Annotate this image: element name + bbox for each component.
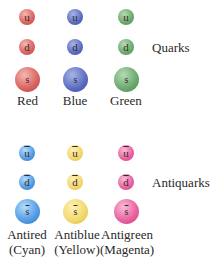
particle-symbol: s — [125, 74, 129, 85]
color-label-name: Antigreen — [100, 227, 154, 242]
antiquark-yellow-d: d — [67, 174, 83, 190]
group-label-quarks: Quarks — [152, 40, 190, 56]
color-label-name: Antired — [4, 227, 50, 242]
particle-symbol: d — [24, 41, 30, 53]
color-label-antigreen: Antigreen(Magenta) — [100, 227, 154, 257]
color-label-red: Red — [12, 93, 43, 108]
particle-symbol: u — [123, 147, 129, 159]
quark-blue-s: s — [63, 67, 88, 92]
particle-symbol: d — [72, 176, 78, 188]
color-label-sub: (Magenta) — [100, 242, 154, 257]
quark-red-u: u — [19, 9, 35, 25]
quark-green-u: u — [118, 9, 134, 25]
particle-symbol: d — [123, 176, 129, 188]
particle-symbol: s — [26, 74, 30, 85]
quark-green-d: d — [118, 39, 134, 55]
color-label-name: Antiblue — [52, 227, 102, 242]
antiquark-magenta-s: s — [114, 199, 139, 224]
particle-symbol: u — [123, 11, 129, 23]
color-label-sub: (Yellow) — [52, 242, 102, 257]
particle-symbol: s — [74, 74, 78, 85]
color-label-green: Green — [104, 93, 148, 108]
particle-symbol: s — [26, 206, 30, 217]
antiquark-cyan-s: s — [15, 199, 40, 224]
group-label-antiquarks: Antiquarks — [152, 175, 210, 191]
particle-symbol: u — [24, 11, 30, 23]
color-label-antiblue: Antiblue(Yellow) — [52, 227, 102, 257]
antiquark-yellow-u: u — [67, 145, 83, 161]
particle-symbol: d — [72, 41, 78, 53]
particle-symbol: d — [24, 176, 30, 188]
color-label-sub: (Cyan) — [4, 242, 50, 257]
particle-symbol: u — [72, 147, 78, 159]
quark-red-d: d — [19, 39, 35, 55]
particle-symbol: u — [72, 11, 78, 23]
color-label-blue: Blue — [58, 93, 92, 108]
color-label-antired: Antired(Cyan) — [4, 227, 50, 257]
antiquark-magenta-u: u — [118, 145, 134, 161]
antiquark-cyan-d: d — [19, 174, 35, 190]
particle-symbol: d — [123, 41, 129, 53]
quark-green-s: s — [114, 67, 139, 92]
particle-symbol: s — [74, 206, 78, 217]
particle-symbol: s — [125, 206, 129, 217]
antiquark-yellow-s: s — [63, 199, 88, 224]
antiquark-magenta-d: d — [118, 174, 134, 190]
antiquark-cyan-u: u — [19, 145, 35, 161]
quark-red-s: s — [15, 67, 40, 92]
particle-symbol: u — [24, 147, 30, 159]
quark-blue-d: d — [67, 39, 83, 55]
quark-blue-u: u — [67, 9, 83, 25]
